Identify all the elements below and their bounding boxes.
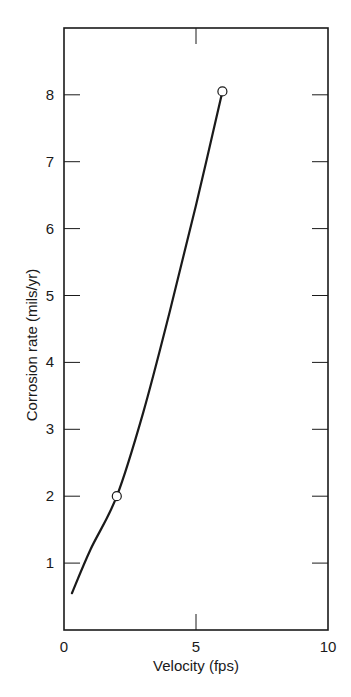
y-tick-label: 1 xyxy=(46,554,54,571)
corrosion-velocity-chart: 0510 12345678 Velocity (fps) Corrosion r… xyxy=(0,0,351,697)
y-tick-label: 3 xyxy=(46,420,54,437)
plot-border xyxy=(64,28,328,630)
data-curve xyxy=(72,91,222,593)
open-circle-marker xyxy=(218,87,227,96)
x-tick-label: 10 xyxy=(320,638,337,655)
x-axis-title: Velocity (fps) xyxy=(153,657,239,674)
axis-ticks xyxy=(64,28,328,630)
y-tick-label: 4 xyxy=(46,353,54,370)
plot-frame xyxy=(64,28,328,630)
open-circle-marker xyxy=(112,492,121,501)
y-axis-title: Corrosion rate (mils/yr) xyxy=(23,269,40,422)
series-line xyxy=(72,91,222,593)
x-tick-label: 5 xyxy=(192,638,200,655)
y-tick-label: 6 xyxy=(46,220,54,237)
x-tick-labels: 0510 xyxy=(60,638,337,655)
x-tick-label: 0 xyxy=(60,638,68,655)
y-tick-label: 7 xyxy=(46,153,54,170)
y-tick-labels: 12345678 xyxy=(46,86,54,571)
y-tick-label: 5 xyxy=(46,287,54,304)
y-tick-label: 8 xyxy=(46,86,54,103)
y-tick-label: 2 xyxy=(46,487,54,504)
